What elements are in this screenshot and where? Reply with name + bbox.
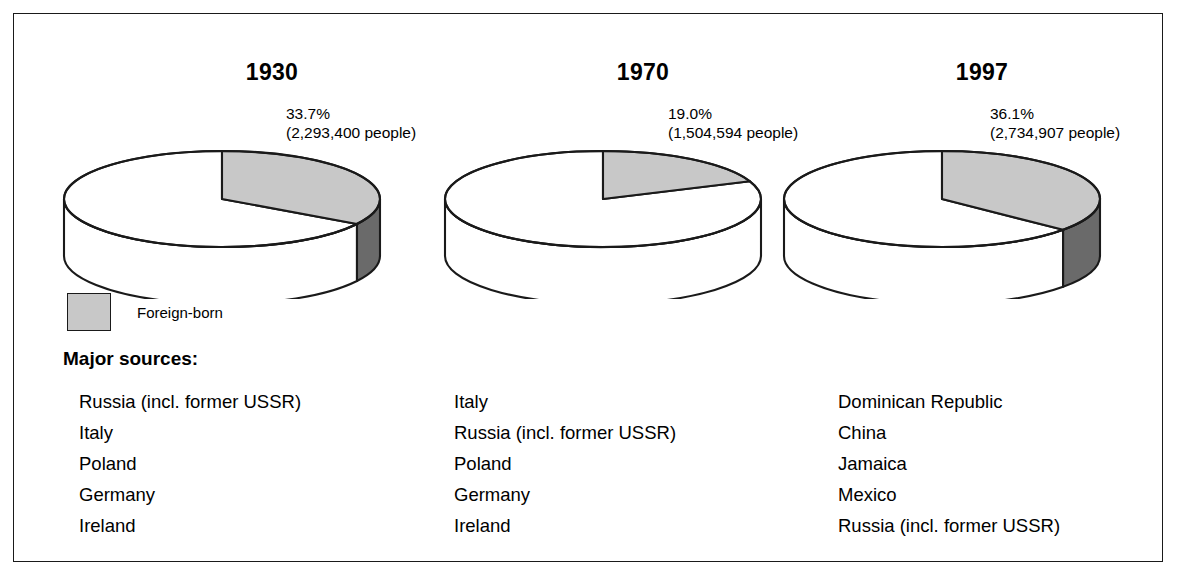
panel-callout: 36.1% (2,734,907 people): [990, 104, 1120, 142]
source-item: Mexico: [838, 479, 1060, 510]
callout-count: (2,734,907 people): [990, 123, 1120, 142]
legend-label: Foreign-born: [137, 304, 223, 321]
source-item: Russia (incl. former USSR): [454, 417, 676, 448]
source-item: Germany: [79, 479, 301, 510]
pie-chart-1970: [433, 149, 793, 299]
source-item: Russia (incl. former USSR): [79, 386, 301, 417]
panel-year-title: 1970: [523, 59, 763, 86]
source-list-1930: Russia (incl. former USSR)ItalyPolandGer…: [79, 386, 301, 541]
source-item: Russia (incl. former USSR): [838, 510, 1060, 541]
source-item: Italy: [79, 417, 301, 448]
callout-count: (2,293,400 people): [286, 123, 416, 142]
figure-root: 1930 33.7% (2,293,400 people) 1970 19.0%…: [0, 0, 1181, 579]
source-item: Jamaica: [838, 448, 1060, 479]
source-item: China: [838, 417, 1060, 448]
source-item: Germany: [454, 479, 676, 510]
pie-3d: [52, 149, 412, 299]
foreign-born-swatch-icon: [67, 293, 111, 331]
panel-callout: 33.7% (2,293,400 people): [286, 104, 416, 142]
pie-chart-1930: [52, 149, 412, 299]
panel-year-title: 1997: [862, 59, 1102, 86]
source-item: Ireland: [79, 510, 301, 541]
figure-frame: 1930 33.7% (2,293,400 people) 1970 19.0%…: [13, 13, 1163, 562]
pie-panel-1930: 1930 33.7% (2,293,400 people): [47, 14, 427, 314]
pie-3d: [433, 149, 793, 299]
source-list-1970: ItalyRussia (incl. former USSR)PolandGer…: [454, 386, 676, 541]
source-item: Poland: [79, 448, 301, 479]
pie-panel-1997: 1997 36.1% (2,734,907 people): [764, 14, 1144, 314]
source-item: Dominican Republic: [838, 386, 1060, 417]
pie-chart-1997: [772, 149, 1132, 299]
source-list-1997: Dominican RepublicChinaJamaicaMexicoRuss…: [838, 386, 1060, 541]
legend: Foreign-born: [67, 293, 223, 331]
callout-percent: 33.7%: [286, 104, 416, 123]
callout-percent: 36.1%: [990, 104, 1120, 123]
source-item: Italy: [454, 386, 676, 417]
source-item: Ireland: [454, 510, 676, 541]
source-item: Poland: [454, 448, 676, 479]
pie-panel-1970: 1970 19.0% (1,504,594 people): [428, 14, 808, 314]
panel-year-title: 1930: [152, 59, 392, 86]
pie-3d: [772, 149, 1132, 299]
major-sources-heading: Major sources:: [63, 348, 198, 370]
